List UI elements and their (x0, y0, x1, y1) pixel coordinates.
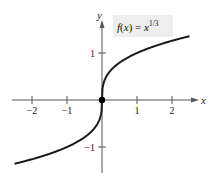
function-exponent: 1/3 (149, 19, 159, 28)
x-tick-label: 2 (170, 105, 175, 116)
origin-point (99, 97, 105, 103)
x-tick-label: 1 (135, 105, 140, 116)
x-tick-label: −1 (62, 105, 73, 116)
y-axis-label: y (96, 9, 102, 21)
x-axis-arrow-icon (191, 98, 199, 103)
y-tick-label: −1 (84, 142, 95, 153)
cube-root-chart: x y −2−112−11 f(x) = x1/3 (0, 0, 217, 178)
x-axis-label: x (200, 94, 206, 106)
plot-area: x y −2−112−11 f(x) = x1/3 (0, 0, 217, 178)
y-axis-arrow-icon (100, 20, 105, 28)
x-tick-label: −2 (27, 105, 38, 116)
y-tick-label: 1 (90, 48, 95, 59)
